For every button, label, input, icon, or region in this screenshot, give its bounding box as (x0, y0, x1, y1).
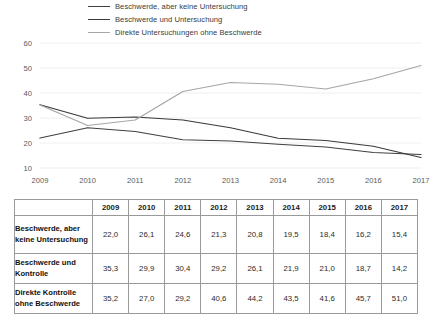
y-axis-tick-label: 60 (24, 39, 32, 48)
x-axis-tick-label: 2014 (270, 176, 287, 185)
table-col-header: 2017 (381, 200, 417, 216)
table-cell: 35,3 (93, 254, 129, 284)
table-cell: 43,5 (273, 284, 309, 314)
series-line-1 (40, 105, 421, 158)
table-cell: 16,2 (345, 216, 381, 254)
x-axis-tick-label: 2013 (222, 176, 239, 185)
chart-gridlines (40, 43, 421, 168)
line-chart-svg: 102030405060 200920102011201220132014201… (0, 36, 432, 188)
table-row: Beschwerde und Kontrolle 35,3 29,9 30,4 … (15, 254, 418, 284)
table-col-header: 2016 (345, 200, 381, 216)
chart-y-axis-labels: 102030405060 (24, 39, 32, 173)
y-axis-tick-label: 40 (24, 89, 32, 98)
x-axis-tick-label: 2012 (174, 176, 191, 185)
table-cell: 29,2 (201, 254, 237, 284)
table-cell: 15,4 (381, 216, 417, 254)
y-axis-tick-label: 30 (24, 114, 32, 123)
legend-item-0: Beschwerde, aber keine Untersuchung (88, 1, 388, 12)
table-cell: 21,9 (273, 254, 309, 284)
table-col-header: 2011 (165, 200, 201, 216)
series-line-0 (40, 128, 421, 155)
table-cell: 27,0 (129, 284, 165, 314)
series-line-2 (40, 66, 421, 126)
y-axis-tick-label: 10 (24, 164, 32, 173)
legend-label-0: Beschwerde, aber keine Untersuchung (115, 2, 248, 11)
table-cell: 14,2 (381, 254, 417, 284)
table-cell: 18,7 (345, 254, 381, 284)
table-cell: 44,2 (237, 284, 273, 314)
table-row: Beschwerde, aber keine Untersuchung 22,0… (15, 216, 418, 254)
x-axis-tick-label: 2016 (365, 176, 382, 185)
legend-item-1: Beschwerde und Untersuchung (88, 14, 388, 25)
legend-line-swatch-2 (88, 32, 110, 33)
legend-label-1: Beschwerde und Untersuchung (115, 15, 222, 24)
table-body: Beschwerde, aber keine Untersuchung 22,0… (15, 216, 418, 314)
figure-page: Beschwerde, aber keine Untersuchung Besc… (0, 0, 432, 327)
table-row-label: Direkte Kontrolle ohne Beschwerde (15, 284, 93, 314)
table-cell: 29,2 (165, 284, 201, 314)
x-axis-tick-label: 2010 (79, 176, 96, 185)
table-col-header: 2010 (129, 200, 165, 216)
table-col-header: 2012 (201, 200, 237, 216)
table-cell: 35,2 (93, 284, 129, 314)
x-axis-tick-label: 2011 (127, 176, 143, 185)
table-cell: 20,8 (237, 216, 273, 254)
x-axis-tick-label: 2015 (317, 176, 334, 185)
table-cell: 18,4 (309, 216, 345, 254)
table-cell: 26,1 (129, 216, 165, 254)
table-row: Direkte Kontrolle ohne Beschwerde 35,2 2… (15, 284, 418, 314)
table-col-header: 2009 (93, 200, 129, 216)
table-corner-cell (15, 200, 93, 216)
table-cell: 21,3 (201, 216, 237, 254)
table-col-header: 2014 (273, 200, 309, 216)
table-col-header: 2013 (237, 200, 273, 216)
data-table: 2009 2010 2011 2012 2013 2014 2015 2016 … (14, 199, 418, 314)
table-cell: 51,0 (381, 284, 417, 314)
chart-series-lines (40, 66, 421, 158)
table-cell: 30,4 (165, 254, 201, 284)
table-cell: 45,7 (345, 284, 381, 314)
x-axis-tick-label: 2009 (32, 176, 49, 185)
table-cell: 40,6 (201, 284, 237, 314)
table-cell: 29,9 (129, 254, 165, 284)
legend-line-swatch-1 (88, 19, 110, 20)
legend-line-swatch-0 (88, 6, 110, 7)
table-cell: 21,0 (309, 254, 345, 284)
table-row-label: Beschwerde, aber keine Untersuchung (15, 216, 93, 254)
line-chart: 102030405060 200920102011201220132014201… (0, 36, 432, 188)
table-col-header: 2015 (309, 200, 345, 216)
y-axis-tick-label: 20 (24, 139, 32, 148)
table-row-label: Beschwerde und Kontrolle (15, 254, 93, 284)
chart-x-axis-labels: 200920102011201220132014201520162017 (32, 176, 430, 185)
table-header-row: 2009 2010 2011 2012 2013 2014 2015 2016 … (15, 200, 418, 216)
y-axis-tick-label: 50 (24, 64, 32, 73)
table-cell: 26,1 (237, 254, 273, 284)
chart-legend: Beschwerde, aber keine Untersuchung Besc… (88, 1, 388, 40)
x-axis-tick-label: 2017 (413, 176, 430, 185)
table-cell: 22,0 (93, 216, 129, 254)
table-header: 2009 2010 2011 2012 2013 2014 2015 2016 … (15, 200, 418, 216)
table-cell: 19,5 (273, 216, 309, 254)
table-cell: 24,6 (165, 216, 201, 254)
table-cell: 41,6 (309, 284, 345, 314)
